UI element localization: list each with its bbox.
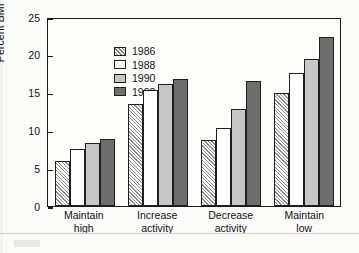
bar-1988-maintain-high[interactable] xyxy=(70,149,85,206)
legend-label-1990: 1990 xyxy=(132,72,155,84)
legend-label-1986: 1986 xyxy=(132,45,155,57)
legend-label-1988: 1988 xyxy=(132,59,155,71)
bar-1992-increase-activity[interactable] xyxy=(173,79,188,206)
legend-swatch-1988 xyxy=(114,60,126,69)
x-axis-labels: MaintainhighIncreaseactivityDecreaseacti… xyxy=(47,209,341,234)
bar-1992-maintain-high[interactable] xyxy=(100,139,115,206)
bar-1986-decrease-activity[interactable] xyxy=(201,140,216,206)
bar-1990-decrease-activity[interactable] xyxy=(231,109,246,206)
y-axis-label-text: Percent BMI > 27.8 kg/m xyxy=(0,0,6,62)
bar-1990-increase-activity[interactable] xyxy=(158,84,173,206)
bar-group xyxy=(48,19,121,206)
y-axis-tick-label: 20 xyxy=(28,49,40,61)
legend-item: 1990 xyxy=(114,72,155,85)
bar-1990-maintain-high[interactable] xyxy=(85,143,100,206)
x-axis-label: Maintainhigh xyxy=(47,209,121,234)
legend-swatch-1986 xyxy=(114,47,126,56)
bar-1986-maintain-low[interactable] xyxy=(274,93,289,206)
x-axis-label: Decreaseactivity xyxy=(194,209,268,234)
x-axis-label: Maintainlow xyxy=(268,209,342,234)
x-axis-label-line: Maintain xyxy=(47,209,121,222)
bar-1990-maintain-low[interactable] xyxy=(304,59,319,206)
bar-1986-increase-activity[interactable] xyxy=(128,104,143,206)
bar-groups xyxy=(48,19,340,206)
legend-swatch-1990 xyxy=(114,74,126,83)
y-axis-tick-label: 5 xyxy=(34,163,40,175)
y-axis-label: Percent BMI > 27.8 kg/m2 xyxy=(0,0,6,96)
y-axis-tick-label: 0 xyxy=(34,201,40,213)
page-scan-line xyxy=(0,233,359,234)
legend-item: 1986 xyxy=(114,45,155,58)
x-axis-label: Increaseactivity xyxy=(121,209,195,234)
x-axis-label-line: Maintain xyxy=(268,209,342,222)
bar-1988-increase-activity[interactable] xyxy=(143,90,158,206)
y-axis-tick-label: 25 xyxy=(28,12,40,24)
y-axis-tick-label: 15 xyxy=(28,87,40,99)
plot-area: 0510152025 1986 1988 1990 1992 xyxy=(47,18,341,207)
page-scan-smudge xyxy=(14,240,40,247)
bar-1992-maintain-low[interactable] xyxy=(319,37,334,206)
legend-swatch-1992 xyxy=(114,87,126,96)
x-axis-label-line: Increase xyxy=(121,209,195,222)
bar-1992-decrease-activity[interactable] xyxy=(246,81,261,206)
figure: Percent BMI > 27.8 kg/m2 0510152025 1986… xyxy=(0,0,359,253)
bar-group xyxy=(267,19,340,206)
bar-group xyxy=(194,19,267,206)
bar-1988-decrease-activity[interactable] xyxy=(216,128,231,206)
bar-1988-maintain-low[interactable] xyxy=(289,73,304,206)
bar-1986-maintain-high[interactable] xyxy=(55,161,70,206)
x-axis-label-line: Decrease xyxy=(194,209,268,222)
y-axis-tick-label: 10 xyxy=(28,125,40,137)
legend-item: 1988 xyxy=(114,59,155,72)
